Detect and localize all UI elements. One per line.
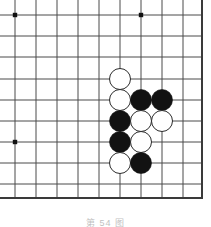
go-stone-black-7-5[interactable]: [131, 90, 152, 111]
go-stone-black-7-8[interactable]: [131, 153, 152, 174]
screenshot-root: 第 54 图: [0, 0, 211, 227]
figure-caption: 第 54 图: [0, 218, 211, 227]
go-board-figure: 第 54 图: [0, 0, 211, 227]
go-stone-white-7-6[interactable]: [131, 111, 152, 132]
go-stone-white-6-8[interactable]: [110, 153, 131, 174]
go-stone-black-8-5[interactable]: [152, 90, 173, 111]
star-point-0: [13, 13, 17, 17]
star-point-2: [13, 140, 17, 144]
go-stone-black-6-6[interactable]: [110, 111, 131, 132]
go-stone-white-7-7[interactable]: [131, 132, 152, 153]
star-point-1: [139, 13, 143, 17]
go-stone-white-8-6[interactable]: [152, 111, 173, 132]
go-stone-white-6-5[interactable]: [110, 90, 131, 111]
go-stone-white-6-4[interactable]: [110, 69, 131, 90]
go-stone-black-6-7[interactable]: [110, 132, 131, 153]
go-board-canvas[interactable]: [0, 0, 211, 227]
board-background: [0, 0, 211, 227]
